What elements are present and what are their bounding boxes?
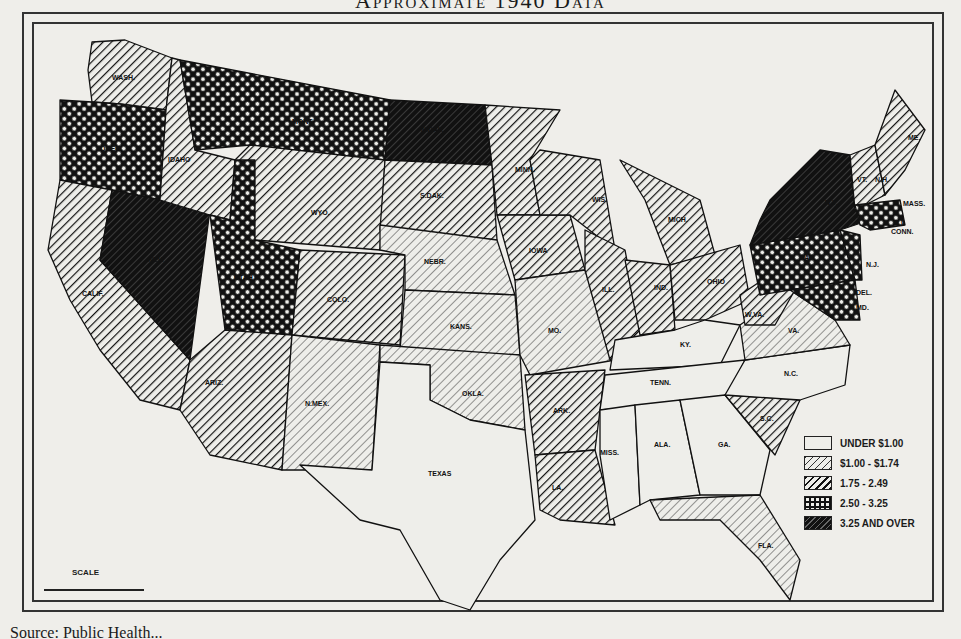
swatch-dense-hatch	[804, 516, 832, 530]
svg-text:MO.: MO.	[548, 327, 561, 334]
svg-text:MD.: MD.	[856, 304, 869, 311]
svg-text:PA.: PA.	[800, 254, 811, 261]
swatch-crosshatch	[804, 496, 832, 510]
svg-text:LA.: LA.	[552, 484, 563, 491]
svg-text:WYO.: WYO.	[311, 209, 330, 216]
svg-text:NEV.: NEV.	[148, 256, 164, 263]
legend-item-1-to-174: $1.00 - $1.74	[804, 453, 915, 473]
swatch-light-hatch	[804, 456, 832, 470]
legend-label: 1.75 - 2.49	[840, 478, 888, 489]
svg-text:W.VA.: W.VA.	[745, 311, 764, 318]
svg-text:WASH.: WASH.	[112, 74, 135, 81]
state-ariz	[180, 330, 292, 470]
svg-text:MISS.: MISS.	[600, 449, 619, 456]
legend-item-175-to-249: 1.75 - 2.49	[804, 473, 915, 493]
legend-label: UNDER $1.00	[840, 438, 903, 449]
svg-text:KANS.: KANS.	[450, 323, 472, 330]
state-mont	[180, 60, 390, 160]
svg-text:IOWA: IOWA	[529, 247, 548, 254]
legend-label: $1.00 - $1.74	[840, 458, 899, 469]
state-wyo	[235, 145, 385, 250]
svg-text:TEXAS: TEXAS	[428, 470, 452, 477]
swatch-blank	[804, 436, 832, 450]
svg-text:ME.: ME.	[908, 134, 921, 141]
svg-text:N.H.: N.H.	[875, 176, 889, 183]
svg-text:DEL.: DEL.	[856, 289, 872, 296]
svg-text:N.C.: N.C.	[784, 370, 798, 377]
svg-text:KY.: KY.	[680, 341, 691, 348]
legend-label: 3.25 AND OVER	[840, 518, 915, 529]
source-note: Source: Public Health...	[10, 624, 162, 639]
svg-text:OREG.: OREG.	[100, 145, 123, 152]
svg-text:N.MEX.: N.MEX.	[305, 400, 329, 407]
legend-item-250-to-325: 2.50 - 3.25	[804, 493, 915, 513]
scale-ruler	[44, 581, 144, 591]
svg-text:S.DAK.: S.DAK.	[420, 192, 444, 199]
svg-text:MASS.: MASS.	[903, 200, 925, 207]
svg-text:ARIZ.: ARIZ.	[205, 379, 223, 386]
svg-text:ARK.: ARK.	[553, 407, 570, 414]
svg-text:COLO.: COLO.	[327, 296, 349, 303]
svg-text:TENN.: TENN.	[650, 379, 671, 386]
state-fla	[650, 495, 800, 600]
svg-text:UTAH: UTAH	[234, 274, 253, 281]
svg-text:N.Y.: N.Y.	[825, 199, 838, 206]
svg-text:NEBR.: NEBR.	[424, 258, 446, 265]
svg-text:IND.: IND.	[654, 284, 668, 291]
svg-text:GA.: GA.	[718, 441, 731, 448]
svg-text:IDAHO: IDAHO	[168, 156, 191, 163]
svg-text:N.DAK.: N.DAK.	[421, 126, 445, 133]
svg-text:MINN.: MINN.	[515, 166, 535, 173]
svg-text:OHIO: OHIO	[707, 278, 725, 285]
svg-text:ILL.: ILL.	[602, 286, 614, 293]
legend: UNDER $1.00 $1.00 - $1.74 1.75 - 2.49 2.…	[804, 433, 915, 533]
svg-text:MICH.: MICH.	[668, 216, 688, 223]
svg-text:FLA.: FLA.	[758, 542, 774, 549]
scale-bar: SCALE	[44, 568, 144, 591]
svg-text:ALA.: ALA.	[654, 441, 670, 448]
scale-label: SCALE	[72, 568, 144, 577]
state-mich	[620, 160, 715, 265]
svg-text:CONN.: CONN.	[891, 228, 914, 235]
svg-text:OKLA.: OKLA.	[462, 390, 484, 397]
svg-text:WIS.: WIS.	[592, 196, 607, 203]
svg-text:S.C.: S.C.	[760, 415, 774, 422]
us-map: WASH. OREG. IDAHO CALIF. NEV. UTAH ARIZ.…	[0, 0, 961, 639]
svg-text:VA.: VA.	[788, 327, 799, 334]
svg-text:VT.: VT.	[857, 176, 867, 183]
svg-text:MONT.: MONT.	[292, 118, 314, 125]
svg-text:N.J.: N.J.	[866, 261, 879, 268]
svg-text:CALIF.: CALIF.	[82, 290, 104, 297]
state-nmex	[282, 335, 380, 470]
legend-item-under-1: UNDER $1.00	[804, 433, 915, 453]
swatch-medium-hatch	[804, 476, 832, 490]
legend-label: 2.50 - 3.25	[840, 498, 888, 509]
svg-text:R.I.: R.I.	[894, 219, 905, 226]
legend-item-325-over: 3.25 AND OVER	[804, 513, 915, 533]
